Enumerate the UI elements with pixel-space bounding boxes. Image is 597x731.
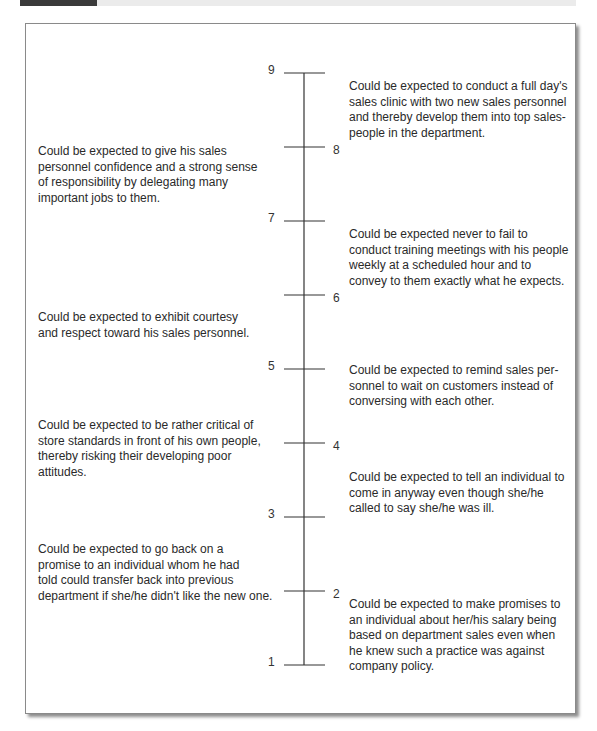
anchor-left-4: Could be expected to exhibit courtesyand…: [38, 310, 249, 341]
anchor-right-5: Could be expected to remind sales per-so…: [349, 363, 558, 410]
scale-label-8: 8: [333, 144, 340, 156]
anchor-line: department if she/he didn't like the new…: [38, 589, 272, 605]
anchor-line: conduct training meetings with his peopl…: [349, 243, 568, 259]
anchor-line: attitudes.: [38, 465, 261, 481]
anchor-line: Could be expected never to fail to: [349, 227, 568, 243]
anchor-line: convey to them exactly what he expects.: [349, 274, 568, 290]
anchor-left-6: Could be expected to be rather critical …: [38, 418, 261, 480]
anchor-line: Could be expected to go back on a: [38, 542, 272, 558]
anchor-line: based on department sales even when: [349, 628, 560, 644]
header-bar-dark: [20, 0, 97, 6]
anchor-line: come in anyway even though she/he: [349, 486, 564, 502]
anchor-line: promise to an individual whom he had: [38, 558, 272, 574]
anchor-line: and thereby develop them into top sales-: [349, 110, 567, 126]
scale-label-9: 9: [268, 64, 275, 76]
anchor-line: Could be expected to be rather critical …: [38, 418, 261, 434]
anchor-line: Could be expected to tell an individual …: [349, 470, 564, 486]
anchor-line: sales clinic with two new sales personne…: [349, 95, 567, 111]
anchor-right-1: Could be expected to conduct a full day'…: [349, 79, 567, 141]
anchor-right-7: Could be expected to tell an individual …: [349, 470, 564, 517]
anchor-line: sonnel to wait on customers instead of: [349, 379, 558, 395]
anchor-line: told could transfer back into previous: [38, 573, 272, 589]
anchor-line: people in the department.: [349, 126, 567, 142]
scale-label-5: 5: [268, 360, 275, 372]
anchor-line: Could be expected to remind sales per-: [349, 363, 558, 379]
anchor-line: company policy.: [349, 659, 560, 675]
anchor-right-9: Could be expected to make promises toan …: [349, 597, 560, 675]
anchor-line: and respect toward his sales personnel.: [38, 326, 249, 342]
anchor-line: Could be expected to give his sales: [38, 144, 258, 160]
anchor-line: an individual about her/his salary being: [349, 613, 560, 629]
scale-label-6: 6: [333, 292, 340, 304]
scale-label-2: 2: [333, 588, 340, 600]
anchor-line: Could be expected to exhibit courtesy: [38, 310, 249, 326]
scale-label-1: 1: [268, 656, 275, 668]
anchor-line: he knew such a practice was against: [349, 644, 560, 660]
anchor-left-8: Could be expected to go back on apromise…: [38, 542, 272, 604]
header-bar-light: [97, 0, 576, 6]
scale-label-4: 4: [333, 440, 340, 452]
anchor-right-3: Could be expected never to fail toconduc…: [349, 227, 568, 289]
anchor-line: Could be expected to make promises to: [349, 597, 560, 613]
anchor-line: conversing with each other.: [349, 394, 558, 410]
scale-label-3: 3: [268, 508, 275, 520]
anchor-line: of responsibility by delegating many: [38, 175, 258, 191]
anchor-line: Could be expected to conduct a full day'…: [349, 79, 567, 95]
anchor-line: important jobs to them.: [38, 191, 258, 207]
anchor-line: personnel confidence and a strong sense: [38, 160, 258, 176]
anchor-line: called to say she/he was ill.: [349, 501, 564, 517]
anchor-line: thereby risking their developing poor: [38, 449, 261, 465]
anchor-line: store standards in front of his own peop…: [38, 434, 261, 450]
anchor-left-2: Could be expected to give his salesperso…: [38, 144, 258, 206]
anchor-line: weekly at a scheduled hour and to: [349, 258, 568, 274]
scale-label-7: 7: [268, 212, 275, 224]
